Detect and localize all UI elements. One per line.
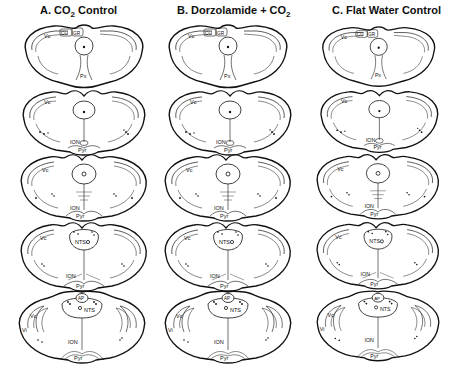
section-c-row1 [312, 24, 444, 94]
section-a-row4 [18, 220, 150, 294]
column-title-a: A. CO2 Control [40, 4, 117, 19]
section-c-row2 [314, 88, 446, 158]
column-a-prefix: A. [40, 4, 51, 16]
section-a-row2 [18, 88, 150, 158]
section-b-row4 [162, 220, 296, 294]
section-b-row3 [162, 152, 296, 224]
column-a-title: CO [54, 4, 71, 16]
section-c-row5 [312, 288, 446, 366]
section-b-row5 [162, 288, 296, 366]
section-b-row2 [164, 88, 296, 158]
column-title-b: B. Dorzolamide + CO2 [177, 4, 291, 19]
section-a-row1 [18, 22, 150, 92]
section-b-row1 [162, 22, 294, 92]
section-a-row5 [16, 288, 150, 366]
column-b-subscript: 2 [286, 10, 290, 19]
column-b-prefix: B. [177, 4, 188, 16]
section-a-row3 [18, 152, 150, 224]
section-c-row4 [312, 220, 446, 294]
column-b-title: Dorzolamide + CO [191, 4, 286, 16]
section-c-row3 [312, 152, 446, 224]
column-c-prefix: C. [332, 4, 343, 16]
column-c-title: Flat Water Control [346, 4, 441, 16]
column-title-c: C. Flat Water Control [332, 4, 441, 16]
column-a-suffix: Control [75, 4, 117, 16]
